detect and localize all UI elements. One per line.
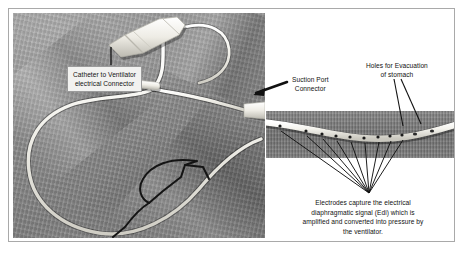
label-evacuation-holes: Holes for Evacuation of stomach <box>366 61 428 79</box>
label-holes-line2: of stomach <box>381 71 414 78</box>
leader-arrow-suction <box>253 82 287 96</box>
label-electrodes-line4: the ventilator. <box>271 227 455 237</box>
label-electrodes-line3: amplified and converted into pressure by <box>271 217 455 227</box>
label-suction-line2: Connector <box>295 85 326 92</box>
label-connector-line1: Catheter to Ventilator <box>73 71 136 78</box>
figure-frame: Catheter to Ventilator electrical Connec… <box>8 8 455 242</box>
label-electrodes-description: Electrodes capture the electrical diaphr… <box>271 198 455 236</box>
leader-line-hole <box>394 79 403 126</box>
label-holes-line1: Holes for Evacuation <box>366 62 428 69</box>
label-electrodes-line2: diaphragmatic signal (Edi) which is <box>271 208 455 218</box>
label-electrodes-line1: Electrodes capture the electrical <box>271 198 455 208</box>
label-suction-line1: Suction Port <box>292 76 329 83</box>
leader-line-hole <box>401 79 421 124</box>
label-suction-port: Suction Port Connector <box>292 75 329 93</box>
label-connector-line2: electrical Connector <box>75 80 134 87</box>
leader-fan-electrodes <box>281 131 403 193</box>
label-connector: Catheter to Ventilator electrical Connec… <box>67 66 142 92</box>
